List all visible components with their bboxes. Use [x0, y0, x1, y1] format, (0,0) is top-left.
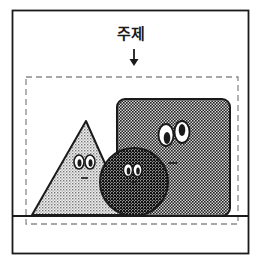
diagram-canvas: 주제 [0, 0, 262, 263]
circle-character [100, 148, 168, 216]
subject-label: 주제 [0, 22, 262, 43]
